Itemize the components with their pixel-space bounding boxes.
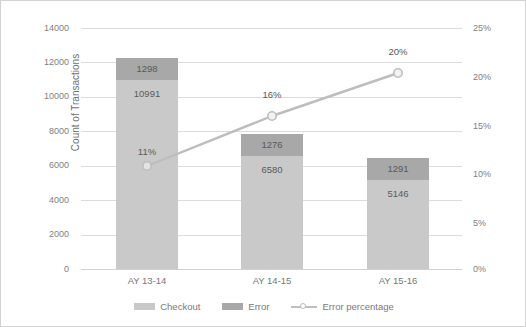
gridline-14000 [81, 28, 462, 29]
legend-swatch-checkout-icon [134, 303, 155, 310]
legend-label-error: Error [248, 301, 269, 312]
x-axis-line [81, 269, 462, 270]
bar-label-error: 1291 [367, 163, 429, 174]
legend-label-checkout: Checkout [160, 301, 200, 312]
y2-axis-tick-20: 20% [473, 72, 519, 82]
y2-axis-tick-5: 5% [473, 218, 519, 228]
legend-label-error-percentage: Error percentage [322, 301, 393, 312]
chart-legend: Checkout Error Error percentage [1, 301, 526, 312]
y2-axis-tick-0: 0% [473, 264, 519, 274]
y2-axis-tick-25: 25% [473, 23, 519, 33]
chart-figure: Count of Transactions 14000 12000 10000 … [0, 0, 526, 327]
y-axis-tick-14000: 14000 [13, 23, 69, 33]
legend-item-error[interactable]: Error [222, 301, 269, 312]
bar-group-ay-13-14[interactable]: 1298 10991 [116, 58, 178, 270]
legend-swatch-error-icon [222, 303, 243, 310]
x-axis-tick-ay-15-16: AY 15-16 [328, 275, 468, 286]
bar-segment-checkout[interactable] [116, 80, 178, 269]
legend-line-marker-icon [291, 302, 317, 311]
x-axis-tick-ay-13-14: AY 13-14 [77, 275, 217, 286]
y-axis-tick-2000: 2000 [13, 229, 69, 239]
bar-label-error: 1276 [241, 139, 303, 150]
bar-label-checkout: 10991 [116, 88, 178, 99]
x-axis-tick-ay-14-15: AY 14-15 [202, 275, 342, 286]
y-axis-tick-4000: 4000 [13, 195, 69, 205]
legend-item-error-percentage[interactable]: Error percentage [291, 301, 393, 312]
y-axis-title: Count of Transactions [70, 23, 81, 183]
y-axis-tick-12000: 12000 [13, 57, 69, 67]
bar-label-checkout: 5146 [367, 188, 429, 199]
bar-group-ay-14-15[interactable]: 1276 6580 [241, 134, 303, 269]
line-label-ay-14-15: 16% [242, 89, 302, 100]
y2-axis-tick-10: 10% [473, 169, 519, 179]
bar-label-checkout: 6580 [241, 164, 303, 175]
y-axis-tick-0: 0 [13, 264, 69, 274]
y2-axis-tick-15: 15% [473, 121, 519, 131]
legend-item-checkout[interactable]: Checkout [134, 301, 200, 312]
y-axis-tick-10000: 10000 [13, 91, 69, 101]
y-axis-tick-6000: 6000 [13, 160, 69, 170]
bar-label-error: 1298 [116, 63, 178, 74]
bar-group-ay-15-16[interactable]: 1291 5146 [367, 158, 429, 269]
line-label-ay-15-16: 20% [368, 46, 428, 57]
y-axis-tick-8000: 8000 [13, 126, 69, 136]
line-label-ay-13-14: 11% [117, 146, 177, 157]
